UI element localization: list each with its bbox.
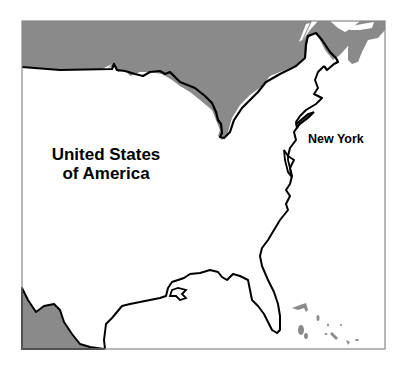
country-label: United States of America xyxy=(42,145,170,183)
mexico-region xyxy=(22,288,104,349)
canada-region xyxy=(22,21,385,140)
bahamas-islands xyxy=(292,303,359,345)
state-label-new-york: New York xyxy=(308,132,364,146)
mississippi-delta xyxy=(170,288,186,300)
country-label-line2: of America xyxy=(42,164,170,183)
country-label-line1: United States xyxy=(42,145,170,164)
new-york-highlight xyxy=(296,112,314,128)
delmarva-peninsula xyxy=(284,150,291,176)
